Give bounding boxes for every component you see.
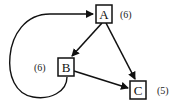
node-c[interactable]: C bbox=[130, 81, 146, 99]
node-c-label: C bbox=[134, 83, 143, 98]
edge-b-to-a-curved bbox=[10, 14, 93, 98]
edge-b-to-c bbox=[74, 71, 128, 88]
graph-diagram: A (6) B (6) C (5) bbox=[0, 0, 181, 106]
node-a-label: A bbox=[99, 7, 109, 22]
node-a-weight: (6) bbox=[120, 9, 132, 21]
node-b-label: B bbox=[62, 60, 71, 75]
edge-a-to-b bbox=[72, 23, 102, 56]
node-c-weight: (5) bbox=[157, 85, 169, 97]
node-b-weight: (6) bbox=[34, 62, 46, 74]
node-a[interactable]: A bbox=[96, 5, 112, 23]
edge-a-to-c bbox=[106, 23, 135, 79]
node-b[interactable]: B bbox=[58, 58, 74, 76]
